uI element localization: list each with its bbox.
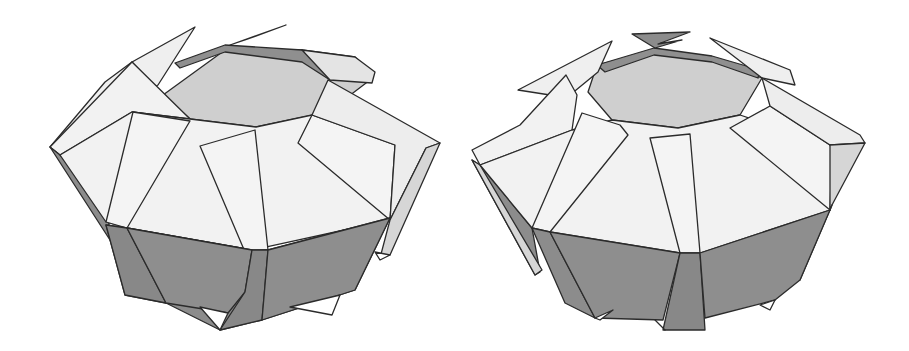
- figure: [0, 0, 909, 351]
- right-folded-ring: [472, 32, 865, 330]
- right-top-bow: [632, 32, 690, 48]
- left-folded-ring: [50, 25, 440, 330]
- right-right-side: [830, 143, 865, 210]
- folded-polyhedra-svg: [0, 0, 909, 351]
- left-flap-back-2: [230, 25, 286, 45]
